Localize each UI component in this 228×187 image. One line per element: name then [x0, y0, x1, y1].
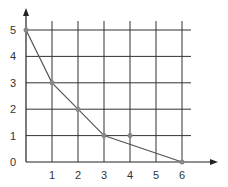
tick-labels: 123456012345: [10, 24, 185, 181]
y-tick-label: 0: [10, 156, 16, 168]
isolated-point: [128, 133, 133, 138]
x-tick-label: 4: [127, 169, 133, 181]
data-point: [180, 160, 185, 165]
y-tick-label: 1: [10, 130, 16, 142]
y-tick-label: 3: [10, 77, 16, 89]
x-tick-label: 5: [153, 169, 159, 181]
data-point: [50, 80, 55, 85]
x-tick-label: 1: [49, 169, 55, 181]
x-tick-label: 2: [75, 169, 81, 181]
x-tick-label: 3: [101, 169, 107, 181]
x-axis-arrow-icon: [210, 159, 218, 165]
x-tick-label: 6: [179, 169, 185, 181]
y-axis-arrow-icon: [23, 8, 29, 16]
data-point: [24, 28, 29, 33]
y-tick-label: 4: [10, 50, 16, 62]
y-tick-label: 2: [10, 103, 16, 115]
chart: 123456012345: [0, 0, 228, 187]
data-point: [76, 107, 81, 112]
grid-lines: [26, 21, 191, 162]
data-point: [102, 133, 107, 138]
y-tick-label: 5: [10, 24, 16, 36]
